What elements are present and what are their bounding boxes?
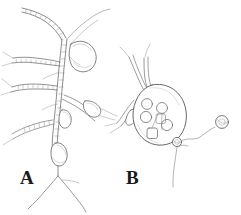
spore-3 [157, 103, 168, 114]
figure-panel-container: A B [0, 0, 241, 215]
panel-label-a: A [20, 168, 34, 187]
spore-2 [140, 111, 151, 122]
fungal-drawing-svg [0, 0, 241, 215]
teardrop-vesicle-1-a [59, 110, 71, 128]
panel-label-b: B [126, 168, 139, 187]
figure-background [0, 0, 241, 215]
teardrop-vesicle-2-a [51, 143, 67, 166]
spore-1 [142, 99, 153, 110]
spore-5 [147, 128, 158, 139]
